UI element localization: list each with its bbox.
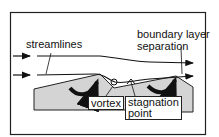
- stagnation-point-label: stagnation point: [125, 96, 182, 120]
- streamlines-label: streamlines: [26, 38, 82, 50]
- flow-diagram: [0, 0, 219, 137]
- boundary-layer-label: boundary layer: [137, 28, 210, 40]
- streamline-upper: [37, 56, 193, 63]
- stagnation-label-line2: point: [128, 108, 179, 119]
- vortex-label: vortex: [88, 96, 124, 110]
- separation-label: separation: [137, 40, 188, 52]
